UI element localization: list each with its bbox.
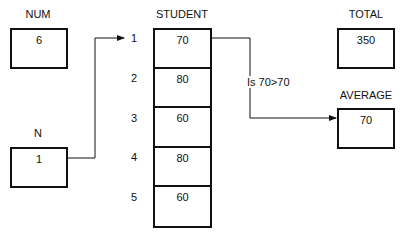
num-label: NUM — [25, 8, 50, 20]
student-cell: 80 — [153, 67, 212, 108]
comparison-text: Is 70>70 — [246, 76, 291, 88]
n-pointer-arrow — [67, 38, 124, 158]
student-cell: 70 — [153, 28, 212, 69]
student-cell-value: 80 — [155, 73, 210, 85]
average-label: AVERAGE — [340, 89, 392, 101]
num-box: 6 — [10, 28, 68, 69]
student-index: 1 — [131, 32, 137, 44]
total-label: TOTAL — [349, 8, 383, 20]
student-index: 2 — [131, 72, 137, 84]
n-value: 1 — [12, 153, 66, 165]
student-index: 4 — [131, 151, 137, 163]
student-cell: 80 — [153, 146, 212, 187]
student-cell: 60 — [153, 106, 212, 148]
n-label: N — [34, 127, 42, 139]
average-box: 70 — [337, 108, 395, 149]
student-cell: 60 — [153, 185, 212, 228]
student-cell-value: 70 — [155, 34, 210, 46]
total-value: 350 — [339, 34, 393, 46]
num-value: 6 — [12, 34, 66, 46]
student-index: 3 — [131, 112, 137, 124]
average-value: 70 — [339, 114, 393, 126]
total-box: 350 — [337, 28, 395, 69]
student-label: STUDENT — [156, 8, 208, 20]
n-box: 1 — [10, 147, 68, 188]
student-cell-value: 80 — [155, 152, 210, 164]
student-index: 5 — [131, 191, 137, 203]
student-cell-value: 60 — [155, 191, 210, 203]
student-cell-value: 60 — [155, 112, 210, 124]
